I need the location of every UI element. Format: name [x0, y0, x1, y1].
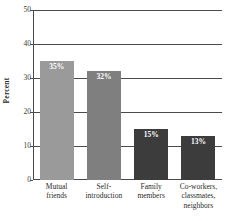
x-axis-category-label-line: Co-workers, — [175, 182, 222, 191]
bar-value-label: 32% — [87, 73, 121, 81]
bar: 15% — [134, 129, 168, 180]
y-axis-tick-label: 20 — [15, 108, 31, 116]
x-axis-category-label-line: Mutual — [33, 182, 80, 191]
x-axis-category-label-line: neighbors — [175, 201, 222, 210]
bar: 35% — [40, 61, 74, 180]
y-axis-title: Percent — [0, 0, 14, 180]
plot-area: 35%32%15%13% — [33, 10, 222, 180]
x-axis-category-label: Co-workers,classmates,neighbors — [175, 182, 222, 210]
x-axis-category-label: Familymembers — [128, 182, 175, 201]
x-axis-category-label-line: Family — [128, 182, 175, 191]
x-axis-category-labels: MutualfriendsSelf-introductionFamilymemb… — [33, 182, 222, 221]
x-axis-category-label: Mutualfriends — [33, 182, 80, 201]
bar-group: 35% — [40, 10, 74, 180]
bar: 13% — [181, 136, 215, 180]
x-axis-category-label: Self-introduction — [80, 182, 127, 201]
bar-chart-figure: Percent 01020304050 35%32%15%13% Mutualf… — [0, 0, 234, 221]
y-axis-tick-label: 0 — [15, 176, 31, 184]
y-axis-tick-labels: 01020304050 — [14, 0, 31, 190]
y-axis-title-label: Percent — [3, 77, 12, 103]
bar-group: 13% — [181, 10, 215, 180]
bar-group: 15% — [134, 10, 168, 180]
x-axis-category-label-line: members — [128, 191, 175, 200]
x-axis-category-label-line: classmates, — [175, 191, 222, 200]
y-axis-tick-label: 50 — [15, 6, 31, 14]
y-axis-tick-label: 30 — [15, 74, 31, 82]
x-axis-category-label-line: friends — [33, 191, 80, 200]
y-axis-tick-mark — [30, 180, 33, 181]
y-axis-tick-label: 10 — [15, 142, 31, 150]
bar-value-label: 15% — [134, 131, 168, 139]
x-axis-category-label-line: introduction — [80, 191, 127, 200]
y-axis-tick-label: 40 — [15, 40, 31, 48]
bar-group: 32% — [87, 10, 121, 180]
bar-value-label: 13% — [181, 138, 215, 146]
x-axis-category-label-line: Self- — [80, 182, 127, 191]
bar: 32% — [87, 71, 121, 180]
bars-layer: 35%32%15%13% — [33, 10, 222, 180]
bar-value-label: 35% — [40, 63, 74, 71]
